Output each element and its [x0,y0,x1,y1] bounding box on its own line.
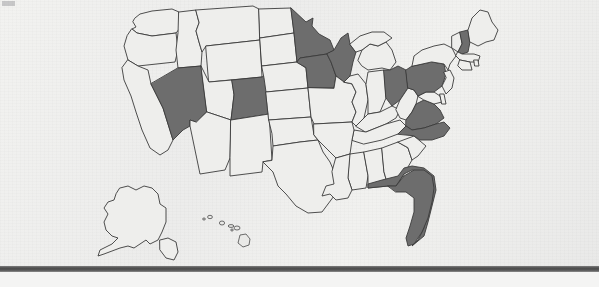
state-alaska[interactable] [98,186,166,256]
hawaii-island-maui[interactable] [234,226,240,230]
hawaii-island-big-island[interactable] [238,234,250,247]
hawaii-island-niihau[interactable] [203,218,206,220]
page-bottom-margin [0,272,599,287]
state-rhode-island[interactable] [474,60,479,66]
state-arizona[interactable] [190,112,231,174]
state-wyoming[interactable] [206,40,262,82]
state-new-mexico[interactable] [230,114,272,176]
hawaii-island-lanai[interactable] [231,229,234,231]
state-kansas[interactable] [266,88,311,120]
scanned-map-page [0,0,599,287]
united-states-map[interactable] [0,0,599,287]
state-alaska-aleutian-tail[interactable] [160,238,178,260]
state-south-dakota[interactable] [260,33,297,66]
state-texas[interactable] [263,140,336,213]
state-nebraska[interactable] [262,62,308,92]
state-maine[interactable] [468,10,498,46]
hawaii-island-molokai[interactable] [228,225,234,228]
hawaii-island-kauai[interactable] [208,215,213,218]
state-colorado[interactable] [231,75,269,120]
state-indiana[interactable] [366,70,386,114]
hawaii-island-oahu[interactable] [219,221,224,225]
state-washington[interactable] [132,9,181,36]
